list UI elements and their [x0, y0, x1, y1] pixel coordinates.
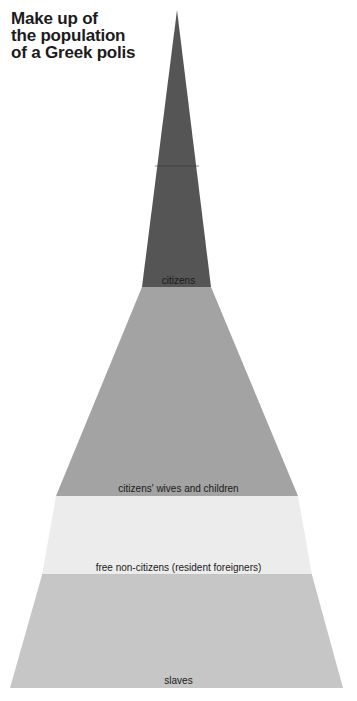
population-pyramid — [0, 0, 357, 701]
label-wives-children: citizens' wives and children — [0, 483, 357, 494]
layer-wives-children — [56, 287, 298, 496]
label-slaves: slaves — [0, 675, 357, 686]
layer-slaves — [10, 575, 343, 688]
layer-citizens — [142, 10, 211, 287]
label-free-non-citizens: free non-citizens (resident foreigners) — [0, 562, 357, 573]
label-citizens: citizens — [0, 275, 357, 286]
